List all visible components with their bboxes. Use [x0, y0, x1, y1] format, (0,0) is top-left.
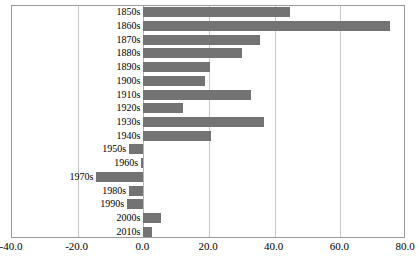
- category-label-1930s: 1930s: [0, 115, 140, 128]
- category-label-1880s: 1880s: [0, 46, 140, 59]
- category-label-1940s: 1940s: [0, 129, 140, 142]
- bar-1980s: [129, 186, 143, 196]
- category-label-1960s: 1960s: [0, 156, 138, 169]
- bar-1860s: [143, 21, 390, 31]
- bar-chart: 1850s1860s1870s1880s1890s1900s1910s1920s…: [0, 0, 419, 263]
- x-tick-label-4: 40.0: [264, 240, 283, 253]
- category-label-1870s: 1870s: [0, 33, 140, 46]
- bar-1970s: [96, 172, 143, 182]
- bar-1920s: [143, 103, 183, 113]
- bar-1950s: [129, 144, 143, 154]
- category-label-1850s: 1850s: [0, 5, 140, 18]
- x-tick-label-6: 80.0: [395, 240, 414, 253]
- bar-1990s: [127, 199, 143, 209]
- category-label-1890s: 1890s: [0, 60, 140, 73]
- bar-2000s: [143, 213, 161, 223]
- x-tick-label-0: -40.0: [0, 240, 22, 253]
- category-label-1900s: 1900s: [0, 74, 140, 87]
- category-label-1860s: 1860s: [0, 19, 140, 32]
- bar-1910s: [143, 90, 251, 100]
- category-label-1990s: 1990s: [0, 197, 124, 210]
- x-tick-label-5: 60.0: [330, 240, 349, 253]
- bar-1940s: [143, 131, 211, 141]
- x-tick-label-1: -20.0: [65, 240, 88, 253]
- bar-1960s: [141, 158, 143, 168]
- bar-2010s: [143, 227, 152, 237]
- bar-1930s: [143, 117, 264, 127]
- bar-1850s: [143, 7, 290, 17]
- category-label-1970s: 1970s: [0, 170, 93, 183]
- category-label-1950s: 1950s: [0, 142, 126, 155]
- category-label-1980s: 1980s: [0, 184, 126, 197]
- category-label-1920s: 1920s: [0, 101, 140, 114]
- bar-1900s: [143, 76, 205, 86]
- bar-1880s: [143, 48, 242, 58]
- x-tick-label-2: 0.0: [135, 240, 149, 253]
- category-label-1910s: 1910s: [0, 88, 140, 101]
- category-label-2010s: 2010s: [0, 225, 140, 238]
- bar-1890s: [143, 62, 210, 72]
- category-label-2000s: 2000s: [0, 211, 140, 224]
- bar-1870s: [143, 35, 260, 45]
- x-tick-label-3: 20.0: [198, 240, 217, 253]
